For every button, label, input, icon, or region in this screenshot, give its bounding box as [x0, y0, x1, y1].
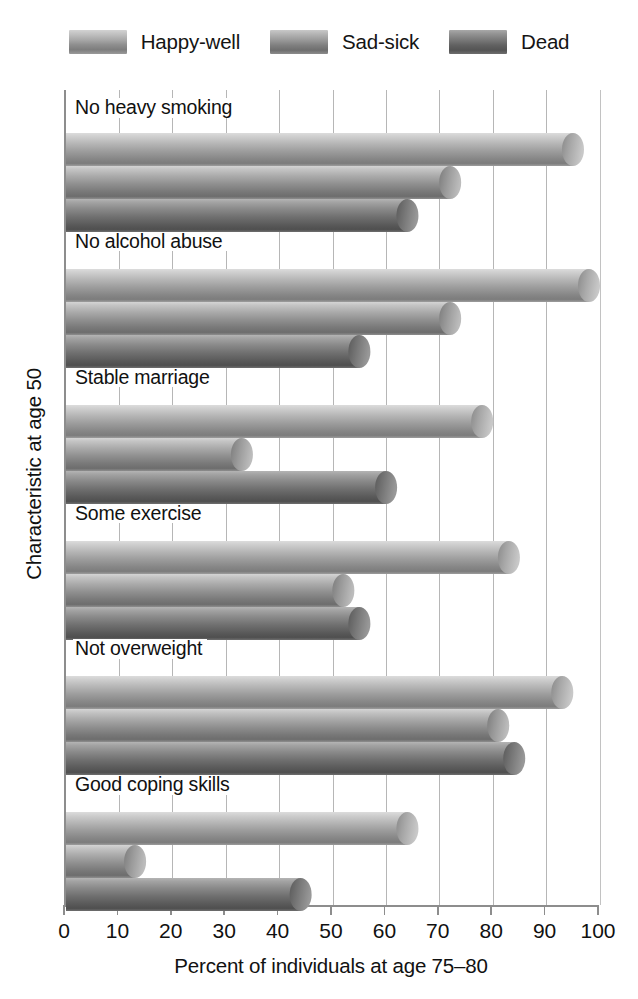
x-axis-tick-label: 60: [373, 919, 396, 943]
y-axis-title: Characteristic at age 50: [22, 264, 46, 684]
x-axis-tick: [330, 905, 332, 915]
x-axis-tick-label: 50: [319, 919, 342, 943]
category-label: No alcohol abuse: [73, 232, 228, 252]
x-axis-tick-label: 20: [159, 919, 182, 943]
x-axis-tick-label: 80: [480, 919, 503, 943]
x-axis-tick: [63, 905, 65, 915]
bar-sad-sick: [66, 302, 474, 335]
category-label: Some exercise: [73, 504, 206, 524]
bar-dead: [66, 471, 410, 504]
gridline: [600, 90, 601, 905]
bar-sad-sick: [66, 709, 522, 742]
bar-dead: [66, 607, 383, 640]
bar-dead: [66, 335, 383, 368]
bar-happy-well: [66, 405, 506, 438]
x-axis-tick-label: 100: [580, 919, 615, 943]
bar-sad-sick: [66, 166, 474, 199]
x-axis-tick: [384, 905, 386, 915]
bar-group: No alcohol abuse: [66, 226, 598, 362]
plot-area: No heavy smokingNo alcohol abuseStable m…: [64, 90, 598, 905]
category-label: No heavy smoking: [73, 98, 237, 118]
legend-item-sad-sick: Sad-sick: [270, 30, 419, 54]
x-axis-tick-label: 90: [533, 919, 556, 943]
x-axis-tick: [597, 905, 599, 915]
bar-group: Not overweight: [66, 633, 598, 769]
x-axis-tick-labels: 0102030405060708090100: [64, 919, 598, 945]
category-label: Stable marriage: [73, 368, 215, 388]
x-axis-tick-label: 0: [58, 919, 70, 943]
bar-sad-sick: [66, 574, 367, 607]
legend-item-happy-well: Happy-well: [69, 30, 240, 54]
bar-happy-well: [66, 676, 586, 709]
legend-item-dead: Dead: [449, 30, 569, 54]
x-axis-tick: [490, 905, 492, 915]
x-axis-tick: [544, 905, 546, 915]
category-label: Good coping skills: [73, 775, 235, 795]
bar-happy-well: [66, 133, 597, 166]
x-axis-tick-label: 40: [266, 919, 289, 943]
legend-label-happy-well: Happy-well: [141, 30, 240, 54]
legend-swatch-sad-sick: [270, 30, 328, 54]
x-axis-tick-label: 10: [106, 919, 129, 943]
bar-happy-well: [66, 812, 431, 845]
bar-group: Stable marriage: [66, 362, 598, 498]
bar-group: Good coping skills: [66, 769, 598, 905]
x-axis-title: Percent of individuals at age 75–80: [64, 954, 598, 978]
chart-legend: Happy-well Sad-sick Dead: [0, 24, 638, 60]
bar-happy-well: [66, 269, 613, 302]
bar-happy-well: [66, 541, 533, 574]
category-label: Not overweight: [73, 639, 207, 659]
legend-swatch-dead: [449, 30, 507, 54]
legend-label-sad-sick: Sad-sick: [342, 30, 419, 54]
bar-sad-sick: [66, 438, 266, 471]
bar-group: Some exercise: [66, 498, 598, 634]
bar-dead: [66, 199, 431, 232]
bar-group: No heavy smoking: [66, 90, 598, 226]
bar-dead: [66, 878, 325, 911]
bar-dead: [66, 742, 538, 775]
x-axis-tick: [437, 905, 439, 915]
x-axis-tick-label: 30: [213, 919, 236, 943]
x-axis-tick-label: 70: [426, 919, 449, 943]
bar-chart: Happy-well Sad-sick Dead No heavy smokin…: [0, 0, 638, 999]
bar-sad-sick: [66, 845, 159, 878]
legend-swatch-happy-well: [69, 30, 127, 54]
legend-label-dead: Dead: [521, 30, 569, 54]
